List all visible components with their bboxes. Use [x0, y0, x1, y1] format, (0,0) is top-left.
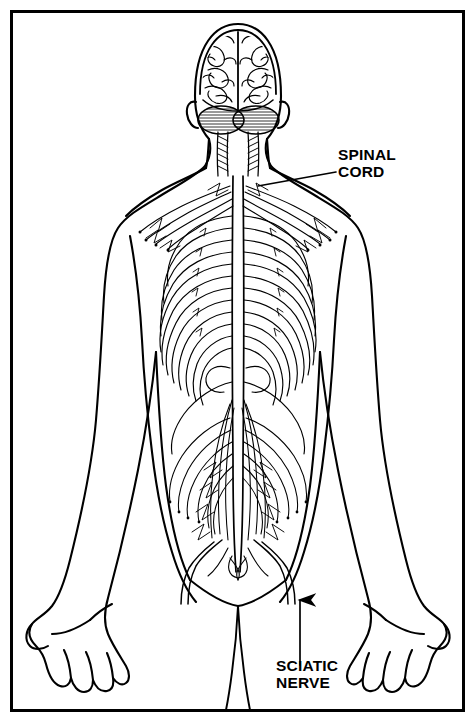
label-sciatic-nerve: SCIATIC NERVE: [276, 657, 338, 691]
cauda-equina: [169, 400, 308, 540]
nervous-system-figure: SPINAL CORD SCIATIC NERVE: [0, 0, 475, 725]
brain: [196, 30, 281, 134]
intercostal-nerves: [160, 216, 316, 405]
lumbar-loops: [172, 366, 305, 454]
brachial-plexus: [139, 183, 338, 252]
cervical-spine: [217, 132, 259, 176]
label-spinal-cord: SPINAL CORD: [338, 146, 396, 180]
anatomy-illustration: [0, 0, 475, 725]
spinal-cord-trunk: [232, 176, 244, 572]
sciatic-nerve: [181, 540, 295, 604]
